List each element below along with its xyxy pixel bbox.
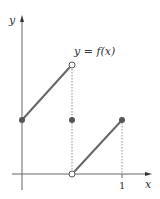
x-tick-label: 1 bbox=[119, 180, 125, 191]
y-axis-arrow-icon bbox=[20, 15, 24, 22]
segment-right bbox=[75, 120, 123, 172]
filled-point-end bbox=[119, 117, 125, 123]
y-axis-label: y bbox=[8, 14, 16, 27]
open-point-bottom bbox=[69, 171, 75, 177]
graph: y y = f(x) 1 x bbox=[0, 0, 160, 199]
filled-point-middle bbox=[69, 117, 75, 123]
segment-left bbox=[22, 68, 70, 121]
function-label: y = f(x) bbox=[73, 45, 115, 58]
open-point-top bbox=[69, 62, 75, 68]
x-axis-arrow-icon bbox=[145, 172, 152, 176]
filled-point-y-intercept bbox=[19, 117, 25, 123]
x-axis-label: x bbox=[145, 178, 152, 191]
